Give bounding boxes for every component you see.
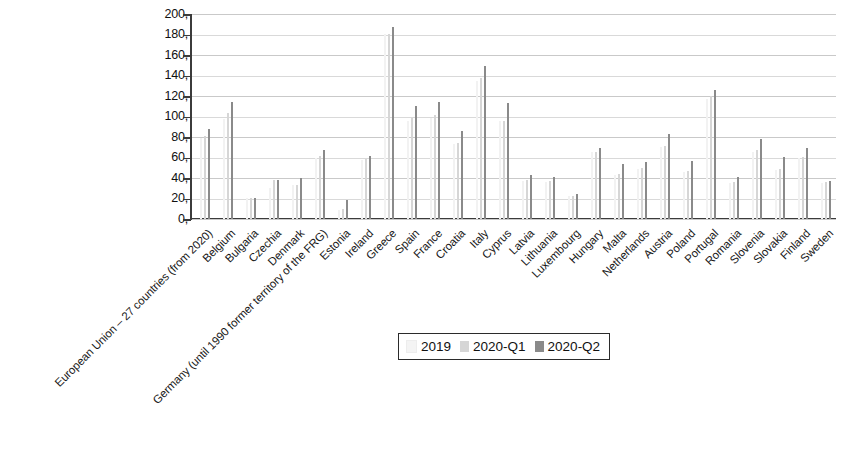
bar (277, 180, 279, 219)
y-axis-tick-mark (183, 137, 191, 139)
legend-item-2019: 2019 (406, 340, 451, 354)
bar (572, 196, 574, 219)
bar (315, 158, 317, 219)
bar (687, 171, 689, 219)
bar (407, 121, 409, 219)
gridline (192, 219, 836, 220)
chart-page: 200,180,160,140,120,100,80,60,40,20,0, E… (0, 0, 845, 463)
chart-plot-wrapper: 200,180,160,140,120,100,80,60,40,20,0, (0, 0, 845, 240)
x-axis-category-label: Ireland (84, 227, 375, 463)
bar-group (752, 14, 763, 219)
bar-group (637, 14, 648, 219)
bar (829, 181, 831, 219)
bar (825, 182, 827, 219)
chart-legend: 2019 2020-Q1 2020-Q2 (398, 333, 610, 360)
bar-group (384, 14, 395, 219)
bar (204, 136, 206, 219)
bar (254, 198, 256, 219)
bar (595, 152, 597, 219)
x-axis-category-label: Belgium (0, 227, 237, 463)
y-axis-tick-mark (183, 35, 191, 37)
bar (729, 183, 731, 219)
bar-group (706, 14, 717, 219)
bar-group (246, 14, 257, 219)
bar (208, 129, 210, 219)
bar (733, 182, 735, 219)
legend-label-2020-q2: 2020-Q2 (548, 340, 601, 354)
y-axis-tick-mark (183, 55, 191, 57)
bar (798, 158, 800, 219)
bar (338, 210, 340, 219)
bar (319, 156, 321, 219)
bar (622, 164, 624, 219)
bar (453, 144, 455, 219)
bar (430, 118, 432, 219)
bar (250, 198, 252, 219)
bar-group (821, 14, 832, 219)
bar (806, 148, 808, 219)
bar-group (269, 14, 280, 219)
bar (346, 200, 348, 219)
bar-group (453, 14, 464, 219)
bar-group (407, 14, 418, 219)
legend-swatch-icon-2019 (406, 340, 417, 353)
y-axis-tick-mark (183, 219, 191, 221)
bar (530, 175, 532, 219)
bar (545, 182, 547, 219)
x-axis-category-label: Greece (107, 227, 398, 463)
bar (231, 102, 233, 219)
bar (392, 27, 394, 219)
bar-group (798, 14, 809, 219)
x-axis-category-label: Spain (130, 227, 421, 463)
bar-group (775, 14, 786, 219)
bar-group (591, 14, 602, 219)
bar-group (292, 14, 303, 219)
x-axis-category-label: Estonia (61, 227, 352, 463)
bar (384, 34, 386, 219)
bar-group (568, 14, 579, 219)
bar (553, 177, 555, 219)
bar (618, 174, 620, 219)
legend-label-2019: 2019 (421, 340, 451, 354)
bar (668, 134, 670, 219)
bar (503, 121, 505, 220)
bar (645, 162, 647, 219)
y-axis-tick-mark (183, 76, 191, 78)
bar-group (660, 14, 671, 219)
plot-area (192, 14, 836, 219)
bar (576, 194, 578, 219)
bar (411, 118, 413, 219)
legend-item-2020-q2: 2020-Q2 (535, 340, 601, 354)
bar (714, 90, 716, 219)
bar (691, 161, 693, 219)
bar (323, 150, 325, 219)
legend-swatch-icon-2020-q2 (535, 341, 544, 352)
bar (710, 96, 712, 219)
bar (779, 169, 781, 219)
bar (568, 196, 570, 219)
bar (599, 148, 601, 219)
bar-group (315, 14, 326, 219)
bar (706, 99, 708, 219)
bar-group (430, 14, 441, 219)
bar (821, 183, 823, 219)
y-axis-tick-mark (183, 14, 191, 16)
legend-item-2020-q1: 2020-Q1 (460, 340, 526, 354)
x-axis-category-label: Bulgaria (0, 227, 260, 463)
bar-group (729, 14, 740, 219)
bar (737, 177, 739, 219)
bar (292, 185, 294, 219)
bar (664, 146, 666, 219)
bar (760, 139, 762, 219)
bar (802, 157, 804, 219)
bar (775, 170, 777, 219)
bar (476, 81, 478, 219)
bar (438, 102, 440, 219)
bar (522, 181, 524, 219)
bar-group (522, 14, 533, 219)
y-axis-tick-mark (183, 178, 191, 180)
legend-swatch-icon-2020-q1 (460, 341, 469, 352)
bar-group (200, 14, 211, 219)
bar-group (499, 14, 510, 219)
bar-group (338, 14, 349, 219)
